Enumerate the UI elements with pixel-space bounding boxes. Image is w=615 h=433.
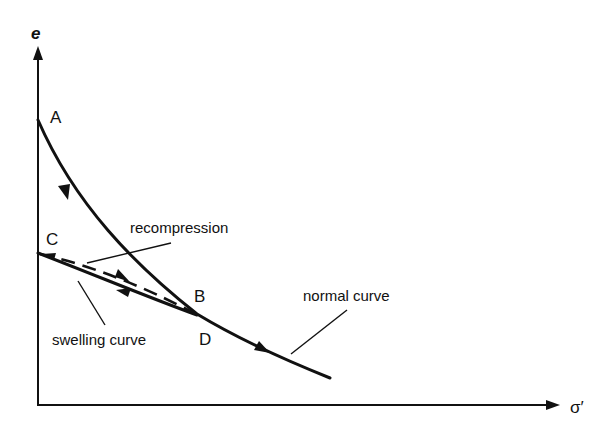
swelling-curve: [38, 253, 197, 315]
x-axis-label: σ′: [570, 398, 584, 417]
point-c-label: C: [46, 230, 58, 249]
recompression-leader-line: [87, 243, 171, 263]
swelling-curve-leader-line: [78, 281, 105, 325]
normal-curve-leader-line: [291, 310, 347, 354]
x-axis-arrowhead-icon: [546, 400, 560, 410]
y-axis-label: e: [31, 24, 40, 43]
swelling-curve-label: swelling curve: [52, 331, 146, 348]
normal-curve-arrow-icon: [58, 184, 70, 200]
point-b-label: B: [194, 287, 205, 306]
normal-curve-label: normal curve: [303, 287, 390, 304]
diagram-canvas: e σ′ A C B D recompression swelling curv…: [0, 0, 615, 433]
normal-curve-arrow-icon: [254, 341, 270, 353]
point-d-label: D: [199, 330, 211, 349]
point-a-label: A: [50, 108, 62, 127]
recompression-arrow-icon: [115, 269, 130, 282]
y-axis-arrowhead-icon: [33, 46, 43, 60]
swelling-curve-arrow-icon: [116, 288, 131, 297]
recompression-label: recompression: [130, 219, 228, 236]
